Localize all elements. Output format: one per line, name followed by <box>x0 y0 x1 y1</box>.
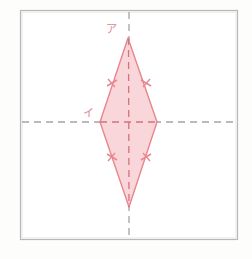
label-a: ア <box>106 23 117 36</box>
figure-canvas: ア イ <box>0 0 252 259</box>
geometry-figure: ア イ <box>0 0 252 259</box>
label-i: イ <box>83 107 94 120</box>
